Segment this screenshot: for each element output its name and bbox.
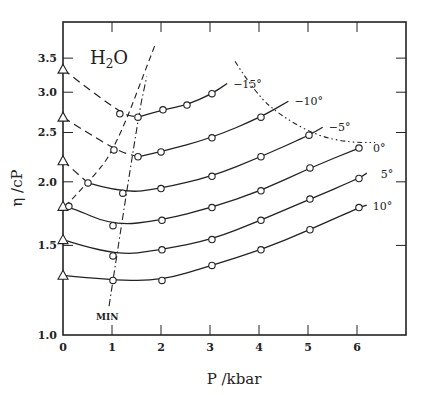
triangle-marker: [58, 112, 68, 121]
series--5deg: −5°: [58, 121, 350, 196]
data-point-marker: [135, 154, 141, 160]
x-tick-label: 6: [353, 341, 361, 354]
viscosity-pressure-chart: 0123456 1.01.52.02.53.03.5 −15°−10°−5°0°…: [0, 0, 429, 395]
x-tick-label: 0: [59, 341, 67, 354]
x-axis-label: P /kbar: [207, 370, 263, 388]
annotation-lines: [65, 45, 375, 306]
series-dashed-segment: [63, 69, 138, 117]
data-point-marker: [258, 247, 264, 253]
data-point-marker: [158, 149, 164, 155]
data-point-marker: [306, 132, 312, 138]
data-point-marker: [135, 114, 141, 120]
data-point-marker: [356, 175, 362, 181]
data-point-marker: [110, 222, 116, 228]
series-label: −5°: [329, 121, 351, 134]
series-line: [88, 127, 323, 191]
data-point-marker: [159, 247, 165, 253]
series-line: [63, 205, 367, 280]
data-point-marker: [159, 217, 165, 223]
data-point-marker: [209, 262, 215, 268]
x-tick-label: 1: [108, 341, 116, 354]
data-point-marker: [258, 154, 264, 160]
data-series: −15°−10°−5°0°5°10°: [58, 64, 393, 284]
series-dashed-segment: [63, 117, 138, 157]
series-10deg: 10°: [58, 200, 392, 284]
series-line: [63, 148, 359, 224]
series--15deg: −15°: [58, 64, 262, 120]
y-tick-label: 1.5: [38, 239, 57, 252]
chart-title: H2O: [90, 47, 128, 71]
y-tick-label: 3.5: [38, 52, 57, 65]
data-point-marker: [111, 147, 117, 153]
series-label: 10°: [373, 200, 393, 213]
triangle-marker: [58, 64, 68, 73]
triangle-marker: [58, 156, 68, 165]
data-point-marker: [209, 135, 215, 141]
data-point-marker: [258, 188, 264, 194]
series-label: −10°: [294, 95, 323, 108]
chart-canvas: 0123456 1.01.52.02.53.03.5 −15°−10°−5°0°…: [0, 0, 429, 395]
x-axis-ticks: 0123456: [59, 22, 361, 354]
y-tick-label: 2.0: [38, 176, 57, 189]
min-locus-label: MIN: [96, 312, 118, 322]
x-tick-label: 4: [255, 341, 263, 354]
data-point-marker: [120, 190, 126, 196]
plot-border: [63, 22, 406, 335]
data-point-marker: [307, 196, 313, 202]
data-point-marker: [160, 107, 166, 113]
data-point-marker: [110, 253, 116, 259]
data-point-marker: [158, 185, 164, 191]
triangle-marker: [58, 235, 68, 244]
series-label: 5°: [381, 168, 394, 181]
data-point-marker: [117, 111, 123, 117]
data-point-marker: [209, 204, 215, 210]
x-tick-label: 3: [206, 341, 214, 354]
x-tick-label: 2: [157, 341, 165, 354]
series-line: [138, 84, 227, 118]
data-point-marker: [209, 173, 215, 179]
data-point-marker: [209, 90, 215, 96]
data-point-marker: [66, 203, 72, 209]
y-tick-label: 1.0: [38, 329, 57, 342]
data-point-marker: [209, 236, 215, 242]
series-label: −15°: [233, 78, 262, 91]
data-point-marker: [110, 277, 116, 283]
series-label: 0°: [373, 142, 386, 155]
data-point-marker: [356, 204, 362, 210]
plot-frame: [63, 22, 406, 335]
data-point-marker: [307, 227, 313, 233]
series-0deg: 0°: [58, 142, 385, 229]
data-point-marker: [159, 277, 165, 283]
triangle-marker: [58, 270, 68, 279]
x-tick-label: 5: [304, 341, 312, 354]
data-point-marker: [85, 180, 91, 186]
data-point-marker: [258, 114, 264, 120]
y-tick-label: 2.5: [38, 126, 57, 139]
data-point-marker: [307, 165, 313, 171]
series-5deg: 5°: [58, 168, 393, 259]
y-tick-label: 3.0: [38, 86, 57, 99]
y-axis-ticks: 1.01.52.02.53.03.5: [38, 52, 406, 342]
data-point-marker: [258, 217, 264, 223]
y-axis-label: η /cP: [8, 169, 26, 206]
data-point-marker: [356, 145, 362, 151]
data-point-marker: [184, 102, 190, 108]
